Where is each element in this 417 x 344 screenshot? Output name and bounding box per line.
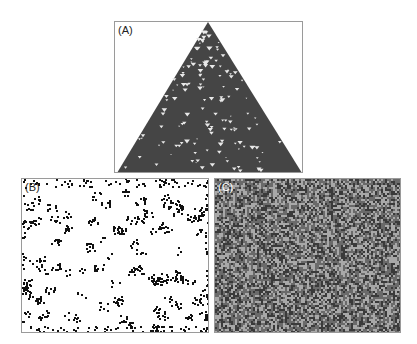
panel-c: (C): [214, 178, 401, 333]
panel-c-label: (C): [218, 181, 233, 193]
triangle-pattern: [115, 22, 303, 173]
panel-b-label: (B): [25, 181, 40, 193]
panel-b: (B): [21, 178, 209, 333]
sparse-cell-pattern: [22, 179, 209, 333]
panel-a-label: (A): [118, 24, 133, 36]
panel-a: (A): [114, 21, 303, 173]
dense-noise-pattern: [215, 179, 401, 333]
